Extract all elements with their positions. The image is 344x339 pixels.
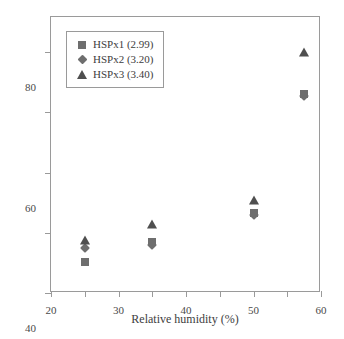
y-tick-label: 60 (25, 202, 36, 213)
legend-item-label: HSPx1 (2.99) (93, 39, 154, 50)
legend-item-label: HSPx2 (3.20) (93, 54, 154, 65)
triangle-marker-icon (74, 70, 90, 79)
x-tick: 40 (119, 291, 120, 297)
data-point-triangle (147, 219, 157, 228)
data-point-square (81, 258, 89, 266)
scatter-chart-figure: 020406080 2030405060708090100 HSPx1 (2.9… (0, 0, 344, 339)
y-tick-label: 80 (25, 82, 36, 93)
x-tick: 30 (85, 291, 86, 297)
square-marker-icon (74, 41, 90, 49)
legend-item: HSPx3 (3.40) (74, 67, 154, 82)
x-tick: 90 (287, 291, 288, 297)
legend-item: HSPx2 (3.20) (74, 52, 154, 67)
data-point-diamond (80, 243, 90, 253)
x-tick: 100 (321, 291, 322, 297)
y-tick: 80 (45, 52, 51, 53)
data-point-triangle (80, 236, 90, 245)
y-tick-label: 40 (25, 323, 36, 334)
y-tick: 20 (45, 233, 51, 234)
x-tick: 70 (220, 291, 221, 297)
legend-item: HSPx1 (2.99) (74, 37, 154, 52)
plot-area: 020406080 2030405060708090100 HSPx1 (2.9… (50, 16, 320, 292)
x-tick: 60 (186, 291, 187, 297)
x-axis-title: Relative humidity (%) (50, 312, 320, 327)
x-tick: 80 (254, 291, 255, 297)
y-tick: 40 (45, 173, 51, 174)
y-tick: 60 (45, 112, 51, 113)
data-point-triangle (299, 48, 309, 57)
legend-item-label: HSPx3 (3.40) (93, 69, 154, 80)
diamond-marker-icon (74, 56, 90, 63)
chart-legend: HSPx1 (2.99)HSPx2 (3.20)HSPx3 (3.40) (66, 31, 164, 88)
data-point-triangle (249, 195, 259, 204)
x-tick: 50 (152, 291, 153, 297)
x-tick: 20 (51, 291, 52, 297)
